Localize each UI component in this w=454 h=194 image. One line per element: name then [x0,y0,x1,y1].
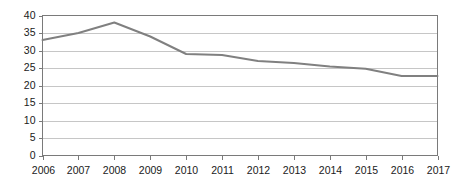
x-axis-tick-label: 2009 [139,164,163,176]
y-axis-tick-label: 15 [24,96,36,108]
x-axis-tick-label: 2013 [283,164,307,176]
y-axis-tick-label: 0 [30,149,36,161]
y-axis-tick-label: 20 [24,79,36,91]
y-axis-tick-label: 40 [24,9,36,21]
x-axis-tick-label: 2011 [211,164,234,176]
x-axis-tick-label: 2008 [103,164,127,176]
y-axis-tick-label: 5 [30,131,36,143]
x-axis-tick-label: 2010 [175,164,199,176]
x-axis-tick-label: 2015 [355,164,379,176]
x-axis-tick-label: 2014 [319,164,343,176]
y-axis-tick-label: 30 [24,44,36,56]
x-axis-tick-label: 2016 [391,164,415,176]
x-axis-tick-label: 2017 [427,164,451,176]
y-axis-tick-label: 35 [24,26,36,38]
y-axis-tick-label: 25 [24,61,36,73]
x-axis-tick-label: 2006 [32,164,56,176]
x-axis-tick-label: 2012 [247,164,271,176]
line-chart: 0510152025303540 20062007200820092010201… [0,0,454,194]
x-axis-tick-label: 2007 [67,164,91,176]
chart-canvas: 0510152025303540 20062007200820092010201… [0,0,454,194]
y-axis-tick-label: 10 [24,114,36,126]
